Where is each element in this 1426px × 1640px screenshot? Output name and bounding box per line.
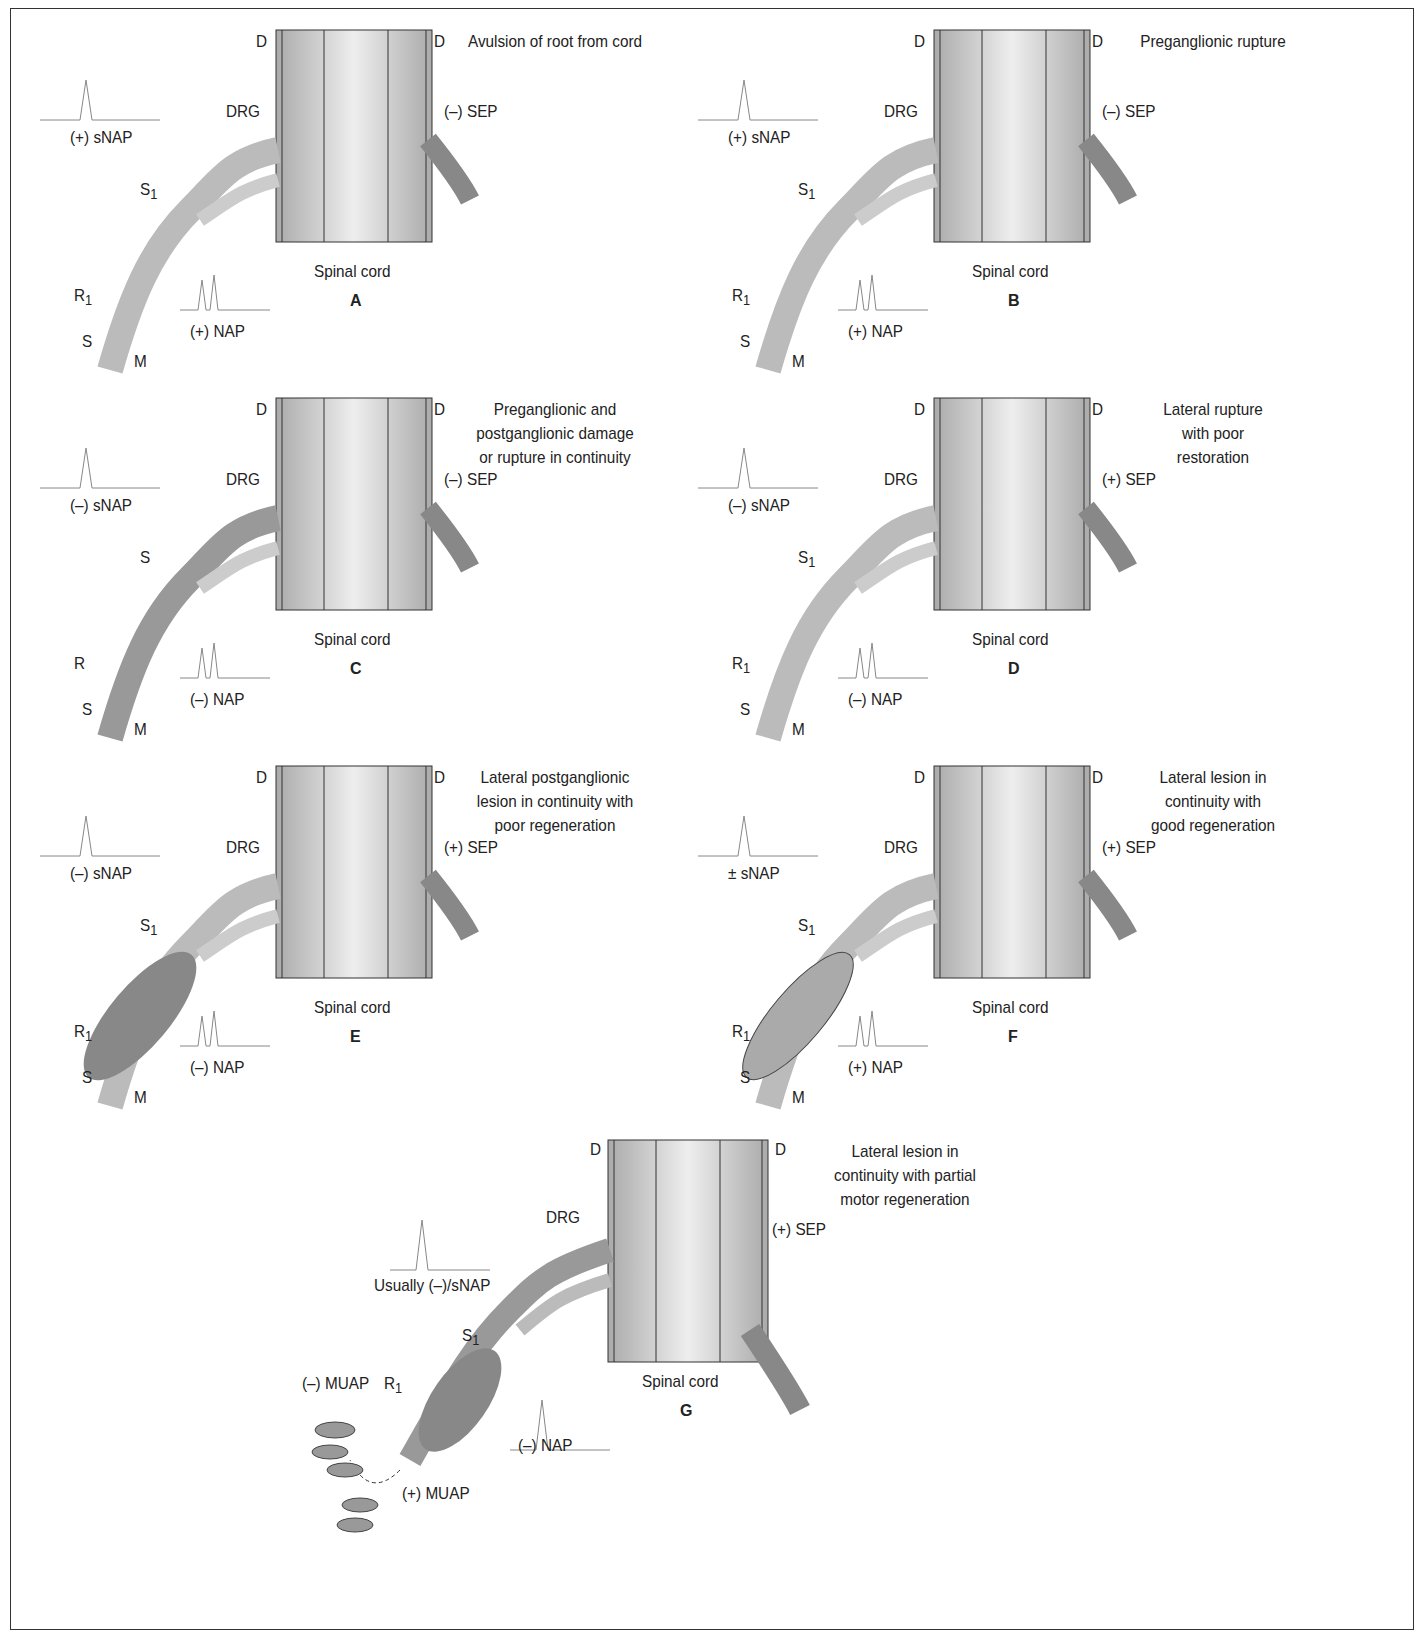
panel-e: D D Lateral postganglionic lesion in con… [30, 766, 730, 1146]
sep-label: (–) SEP [444, 102, 498, 122]
sep-label: (+) SEP [772, 1220, 826, 1240]
drg-label: DRG [226, 470, 260, 490]
drg-label: DRG [884, 838, 918, 858]
dorsal-label: D [590, 1140, 601, 1160]
motor-fiber-label: M [792, 720, 805, 740]
sensory-label: Usually (–)/sNAP [374, 1276, 490, 1296]
panel-title: Lateral rupture with poor restoration [1119, 398, 1308, 470]
dorsal-label: D [434, 32, 445, 52]
sensory-fiber-label: S [82, 332, 92, 352]
s1-label: S1 [798, 548, 815, 570]
motor-fiber-label: M [792, 352, 805, 372]
sensory-fiber-label: S [740, 700, 750, 720]
panel-letter: A [350, 292, 362, 310]
spinal-cord-label: Spinal cord [314, 262, 391, 282]
sep-label: (–) SEP [444, 470, 498, 490]
dorsal-label: D [256, 400, 267, 420]
sensory-label: (+) sNAP [728, 128, 790, 148]
r1-label: R1 [74, 1022, 92, 1044]
sensory-label: ± sNAP [728, 864, 780, 884]
drg-label: DRG [884, 102, 918, 122]
panel-title: Avulsion of root from cord [461, 30, 650, 54]
spinal-cord-label: Spinal cord [972, 630, 1049, 650]
sep-label: (+) SEP [1102, 838, 1156, 858]
sensory-fiber-label: S [82, 1068, 92, 1088]
motor-fiber-label: M [134, 352, 147, 372]
dorsal-label: D [914, 768, 925, 788]
panel-letter: D [1008, 660, 1020, 678]
sensory-fiber-label: S [740, 1068, 750, 1088]
dorsal-label: D [775, 1140, 786, 1160]
spinal-cord-label: Spinal cord [314, 998, 391, 1018]
sensory-label: (–) sNAP [728, 496, 790, 516]
spinal-cord-label: Spinal cord [972, 998, 1049, 1018]
panel-title: Lateral postganglionic lesion in continu… [461, 766, 650, 838]
drg-label: DRG [226, 838, 260, 858]
dorsal-label: D [434, 400, 445, 420]
s1-label: S1 [798, 916, 815, 938]
motor-fiber-label: M [134, 1088, 147, 1108]
sensory-fiber-label: S [82, 700, 92, 720]
nerve-label: (–) NAP [190, 1058, 244, 1078]
dorsal-label: D [1092, 32, 1103, 52]
dorsal-label: D [1092, 768, 1103, 788]
panel-letter: B [1008, 292, 1020, 310]
spinal-cord-label: Spinal cord [972, 262, 1049, 282]
panel-g: D D Lateral lesion in continuity with pa… [290, 1130, 1050, 1550]
panel-title: Preganglionic and postganglionic damage … [461, 398, 650, 470]
panel-letter: E [350, 1028, 361, 1046]
drg-label: DRG [226, 102, 260, 122]
panel-b: D D Preganglionic rupture (–) SEP DRG (+… [688, 30, 1388, 410]
nerve-label: (–) NAP [518, 1436, 572, 1456]
muap-pos-label: (+) MUAP [402, 1484, 470, 1504]
panel-f: D D Lateral lesion in continuity with go… [688, 766, 1388, 1146]
panel-c: D D Preganglionic and postganglionic dam… [30, 398, 730, 778]
sensory-label: (–) sNAP [70, 496, 132, 516]
nerve-label: (+) NAP [848, 1058, 903, 1078]
dorsal-label: D [256, 32, 267, 52]
sep-label: (+) SEP [1102, 470, 1156, 490]
panel-title: Lateral lesion in continuity with partia… [811, 1140, 1000, 1212]
s1-label: S1 [140, 916, 157, 938]
panel-letter: C [350, 660, 362, 678]
nerve-label: (–) NAP [848, 690, 902, 710]
panel-letter: F [1008, 1028, 1018, 1046]
sep-label: (+) SEP [444, 838, 498, 858]
panel-d: D D Lateral rupture with poor restoratio… [688, 398, 1388, 778]
r1-label: R1 [732, 1022, 750, 1044]
r1-label: R1 [384, 1374, 402, 1396]
nerve-label: (+) NAP [848, 322, 903, 342]
panel-title: Preganglionic rupture [1119, 30, 1308, 54]
r1-label: R [74, 654, 85, 676]
motor-fiber-label: M [792, 1088, 805, 1108]
dorsal-label: D [1092, 400, 1103, 420]
motor-fiber-label: M [134, 720, 147, 740]
s1-label: S1 [140, 180, 157, 202]
muap-neg-label: (–) MUAP [302, 1374, 369, 1394]
nerve-label: (+) NAP [190, 322, 245, 342]
panel-a: D D Avulsion of root from cord (–) SEP D… [30, 30, 730, 410]
panel-letter: G [680, 1402, 692, 1420]
s1-label: S [140, 548, 150, 570]
sep-label: (–) SEP [1102, 102, 1156, 122]
drg-label: DRG [546, 1208, 580, 1228]
dorsal-label: D [434, 768, 445, 788]
sensory-label: (–) sNAP [70, 864, 132, 884]
sensory-label: (+) sNAP [70, 128, 132, 148]
spinal-cord-label: Spinal cord [642, 1372, 719, 1392]
s1-label: S1 [462, 1326, 479, 1348]
r1-label: R1 [732, 654, 750, 676]
r1-label: R1 [74, 286, 92, 308]
dorsal-label: D [914, 32, 925, 52]
panel-title: Lateral lesion in continuity with good r… [1119, 766, 1308, 838]
r1-label: R1 [732, 286, 750, 308]
sensory-fiber-label: S [740, 332, 750, 352]
dorsal-label: D [914, 400, 925, 420]
nerve-label: (–) NAP [190, 690, 244, 710]
dorsal-label: D [256, 768, 267, 788]
spinal-cord-label: Spinal cord [314, 630, 391, 650]
drg-label: DRG [884, 470, 918, 490]
s1-label: S1 [798, 180, 815, 202]
